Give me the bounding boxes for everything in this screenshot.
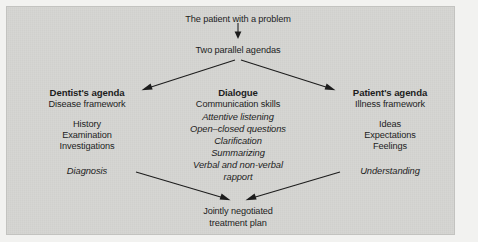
arrow-understanding-to-plan	[246, 172, 341, 200]
column-left-heading: Dentist's agenda	[50, 87, 125, 98]
column-right-outcome-understanding: Understanding	[360, 165, 420, 176]
arrow-agendas-to-dentist	[142, 60, 236, 90]
column-center-item-1: Open–closed questions	[190, 123, 286, 134]
arrow-diagnosis-to-plan	[136, 172, 231, 200]
column-right-subheading: Illness framework	[355, 99, 425, 110]
column-right-item-0: Ideas	[379, 119, 401, 130]
arrow-patient-to-agendas	[235, 23, 242, 39]
column-center-item-3: Summarizing	[211, 147, 265, 158]
column-center-item-2: Clarification	[214, 135, 262, 146]
column-right-item-2: Feelings	[373, 141, 407, 152]
node-plan-line-2: treatment plan	[209, 218, 266, 229]
column-center-item-4: Verbal and non-verbal	[193, 159, 283, 170]
diagram-panel: The patient with a problem Two parallel …	[6, 6, 455, 235]
figure-root: The patient with a problem Two parallel …	[0, 0, 478, 242]
column-left-subheading: Disease framework	[49, 99, 126, 110]
column-center-item-0: Attentive listening	[202, 111, 274, 122]
node-plan-line-1: Jointly negotiated	[203, 206, 273, 217]
column-left-item-1: Examination	[62, 130, 111, 141]
arrow-agendas-to-patient	[241, 60, 336, 90]
column-left-item-2: Investigations	[60, 141, 115, 152]
column-right-item-1: Expectations	[364, 130, 415, 141]
column-left-outcome-diagnosis: Diagnosis	[67, 165, 107, 176]
column-center-subheading: Communication skills	[196, 99, 280, 110]
node-patient-with-problem: The patient with a problem	[185, 14, 291, 25]
column-center-heading: Dialogue	[218, 87, 258, 98]
column-center-item-5: rapport	[223, 171, 252, 182]
column-left-item-0: History	[73, 119, 101, 130]
column-right-heading: Patient's agenda	[353, 87, 427, 98]
node-two-parallel-agendas: Two parallel agendas	[196, 45, 281, 56]
